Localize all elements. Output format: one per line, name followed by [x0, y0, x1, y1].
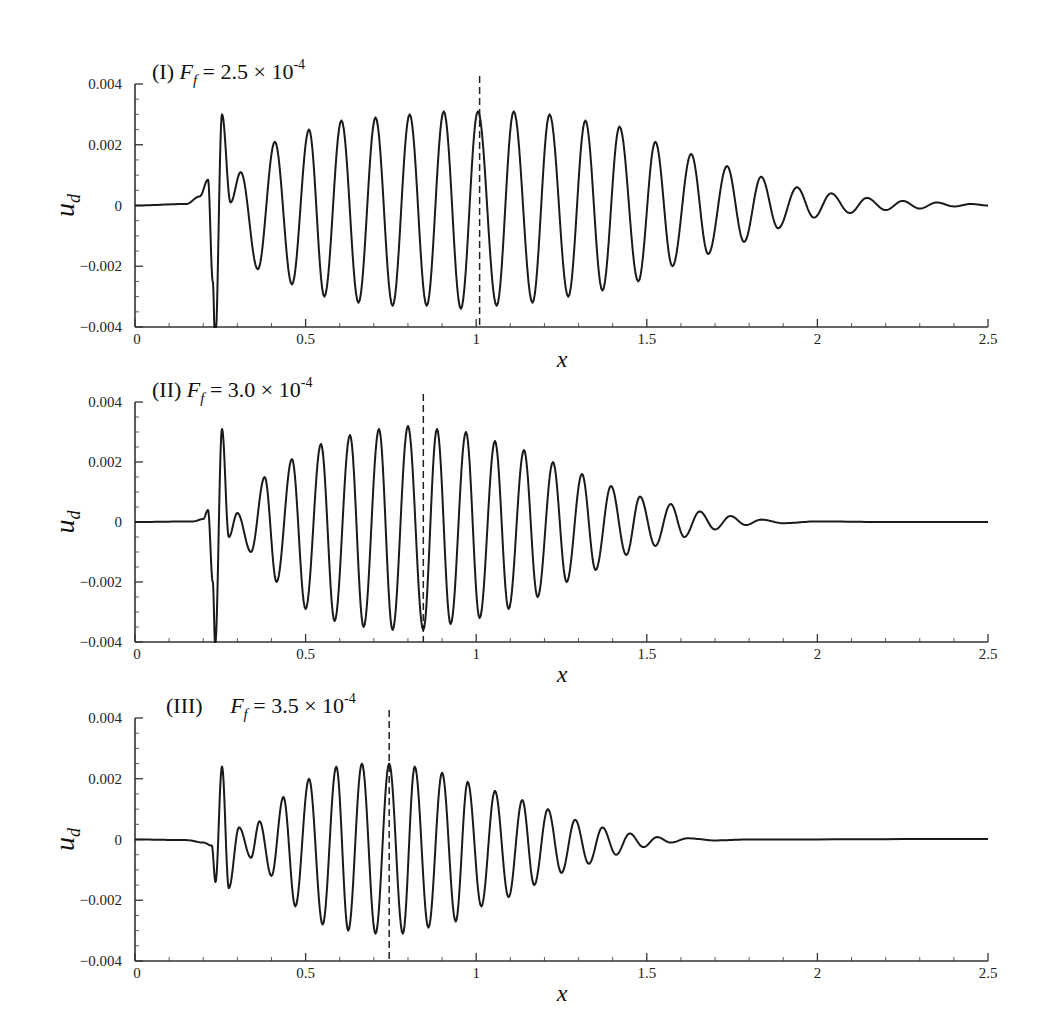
y-tick-label: 0.002	[88, 137, 122, 153]
x-tick-label: 0.5	[296, 331, 315, 347]
x-tick-label: 2	[814, 331, 822, 347]
y-tick-label: 0	[115, 514, 123, 530]
signal-curve	[135, 764, 988, 934]
y-tick-label: −0.002	[80, 258, 122, 274]
x-tick-label: 2.5	[979, 965, 998, 981]
x-tick-label: 0.5	[296, 646, 315, 662]
y-axis-label: ud	[49, 193, 84, 217]
x-tick-label: 1	[472, 331, 480, 347]
y-tick-label: −0.002	[80, 892, 122, 908]
panel-ii: 0.0040.0020−0.002−0.00400.511.522.5xud(I…	[49, 375, 997, 687]
panel-title: (III) Ff = 3.5 × 10-4	[166, 691, 356, 722]
y-tick-label: −0.004	[80, 319, 123, 335]
y-tick-label: −0.004	[80, 953, 123, 969]
x-axis-label: x	[556, 661, 568, 687]
y-tick-label: 0.004	[88, 76, 122, 92]
y-tick-label: 0	[115, 832, 123, 848]
x-tick-label: 2	[814, 646, 822, 662]
x-tick-label: 1.5	[637, 331, 656, 347]
x-tick-label: 0	[133, 965, 141, 981]
x-tick-label: 1	[472, 965, 480, 981]
y-tick-label: 0.002	[88, 454, 122, 470]
panel-i: 0.0040.0020−0.002−0.00400.511.522.5xud(I…	[49, 57, 997, 372]
x-tick-label: 1	[472, 646, 480, 662]
y-tick-label: −0.004	[80, 634, 123, 650]
x-tick-label: 1.5	[637, 965, 656, 981]
y-axis-label: ud	[49, 827, 84, 851]
y-tick-label: 0	[115, 198, 123, 214]
x-tick-label: 0	[133, 646, 141, 662]
y-tick-label: 0.004	[88, 710, 122, 726]
panel-title: (II) Ff = 3.0 × 10-4	[152, 375, 312, 406]
x-tick-label: 2	[814, 965, 822, 981]
y-tick-label: −0.002	[80, 574, 122, 590]
panel-iii: 0.0040.0020−0.002−0.00400.511.522.5xud(I…	[49, 691, 997, 1006]
x-tick-label: 0	[133, 331, 141, 347]
y-tick-label: 0.002	[88, 771, 122, 787]
signal-curve	[135, 111, 988, 327]
x-tick-label: 2.5	[979, 646, 998, 662]
x-tick-label: 0.5	[296, 965, 315, 981]
signal-curve	[135, 426, 988, 642]
x-tick-label: 2.5	[979, 331, 998, 347]
panel-title: (I) Ff = 2.5 × 10-4	[152, 57, 305, 88]
x-tick-label: 1.5	[637, 646, 656, 662]
y-tick-label: 0.004	[88, 394, 122, 410]
y-axis-label: ud	[49, 510, 84, 534]
x-axis-label: x	[556, 980, 568, 1006]
x-axis-label: x	[556, 346, 568, 372]
figure: 0.0040.0020−0.002−0.00400.511.522.5xud(I…	[0, 0, 1055, 1033]
